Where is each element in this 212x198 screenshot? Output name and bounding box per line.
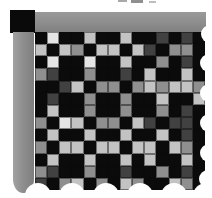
mosaic-cell	[169, 141, 181, 153]
mosaic-cell	[144, 117, 156, 129]
mosaic-cell	[132, 68, 144, 80]
mosaic-cell	[108, 93, 120, 105]
mosaic-cell	[181, 68, 193, 80]
mosaic-cell	[84, 32, 96, 44]
mosaic-cell	[144, 154, 156, 166]
mosaic-cell	[47, 105, 59, 117]
mosaic-cell	[59, 105, 71, 117]
mosaic-cell	[71, 141, 83, 153]
torn-edge-notch-right	[200, 84, 212, 102]
mosaic-cell	[132, 32, 144, 44]
torn-edge-notch-right	[201, 25, 212, 43]
mosaic-cell	[156, 56, 168, 68]
mosaic-cell	[108, 129, 120, 141]
mosaic-cell	[35, 154, 47, 166]
mosaic-cell	[59, 117, 71, 129]
mosaic-cell	[71, 32, 83, 44]
mosaic-cell	[108, 44, 120, 56]
mosaic-cell	[47, 93, 59, 105]
mosaic-cell	[181, 166, 193, 178]
mosaic-cell	[108, 154, 120, 166]
mosaic-cell	[96, 81, 108, 93]
mosaic-cell	[144, 129, 156, 141]
cropped-text-fragment	[149, 1, 156, 3]
mosaic-cell	[144, 81, 156, 93]
mosaic-cell	[120, 44, 132, 56]
mosaic-cell	[59, 56, 71, 68]
mosaic-cell	[108, 68, 120, 80]
torn-edge-notch-right	[200, 114, 212, 132]
mosaic-cell	[59, 93, 71, 105]
mosaic-cell	[144, 68, 156, 80]
mosaic-cell	[35, 117, 47, 129]
mosaic-cell	[108, 117, 120, 129]
mosaic-cell	[108, 141, 120, 153]
image-canvas	[0, 0, 212, 198]
mosaic-cell	[84, 166, 96, 178]
mosaic-cell	[181, 129, 193, 141]
mosaic-cell	[84, 44, 96, 56]
mosaic-cell	[47, 56, 59, 68]
mosaic-cell	[132, 117, 144, 129]
mosaic-cell	[71, 105, 83, 117]
mosaic-cell	[108, 32, 120, 44]
mosaic-cell	[156, 44, 168, 56]
mosaic-cell	[47, 117, 59, 129]
mosaic-cell	[193, 129, 205, 141]
mosaic-cell	[96, 166, 108, 178]
mosaic-cell	[47, 166, 59, 178]
mosaic-cell	[120, 154, 132, 166]
mosaic-cell	[120, 105, 132, 117]
mosaic-cell	[47, 154, 59, 166]
mosaic-cell	[120, 81, 132, 93]
mosaic-cell	[144, 44, 156, 56]
mosaic-cell	[181, 32, 193, 44]
mosaic-cell	[181, 44, 193, 56]
mosaic-cell	[35, 129, 47, 141]
mosaic-cell	[120, 141, 132, 153]
mosaic-cell	[59, 81, 71, 93]
mosaic-cell	[144, 105, 156, 117]
mosaic-cell	[181, 105, 193, 117]
mosaic-cell	[144, 32, 156, 44]
mosaic-cell	[120, 32, 132, 44]
mosaic-cell	[84, 178, 96, 190]
mosaic-cell	[84, 154, 96, 166]
mosaic-cell	[169, 117, 181, 129]
mosaic-cell	[132, 93, 144, 105]
mosaic-cell	[169, 129, 181, 141]
mosaic-cell	[96, 44, 108, 56]
mosaic-cell	[169, 32, 181, 44]
mosaic-cell	[35, 105, 47, 117]
mosaic-cell	[156, 68, 168, 80]
mosaic-cell	[181, 56, 193, 68]
torn-edge-notch-right	[200, 144, 212, 162]
mosaic-cell	[35, 81, 47, 93]
mosaic-cell	[47, 44, 59, 56]
top-gray-bar	[35, 12, 206, 32]
mosaic-cell	[169, 44, 181, 56]
mosaic-cell	[108, 81, 120, 93]
mosaic-cell	[35, 68, 47, 80]
cropped-text-fragment	[131, 0, 143, 3]
mosaic-cell	[169, 166, 181, 178]
mosaic-cell	[156, 166, 168, 178]
mosaic-cell	[96, 141, 108, 153]
mosaic-cell	[35, 93, 47, 105]
mosaic-cell	[96, 68, 108, 80]
mosaic-cell	[71, 129, 83, 141]
mosaic-cell	[35, 166, 47, 178]
mosaic-cell	[71, 44, 83, 56]
mosaic-cell	[96, 154, 108, 166]
mosaic-cell	[156, 129, 168, 141]
mosaic-cell	[96, 105, 108, 117]
mosaic-cell	[59, 166, 71, 178]
mosaic-cell	[120, 68, 132, 80]
mosaic-cell	[84, 105, 96, 117]
mosaic-cell	[71, 117, 83, 129]
mosaic-cell	[59, 32, 71, 44]
mosaic-cell	[35, 141, 47, 153]
mosaic-cell	[71, 154, 83, 166]
mosaic-cell	[144, 56, 156, 68]
mosaic-cell	[181, 141, 193, 153]
